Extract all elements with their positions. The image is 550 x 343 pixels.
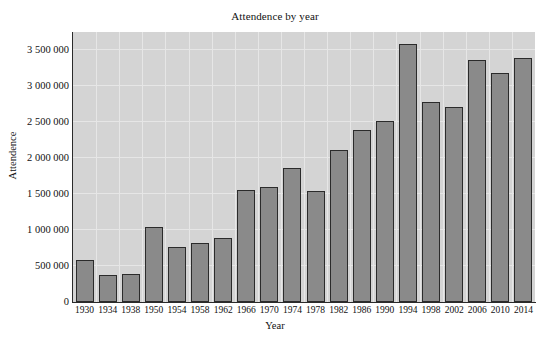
y-axis-line bbox=[72, 32, 73, 303]
chart-title: Attendence by year bbox=[0, 10, 550, 22]
y-axis-tick-label: 500 000 bbox=[3, 261, 69, 271]
bar-series bbox=[73, 32, 535, 302]
bar bbox=[468, 60, 486, 302]
x-axis-tick-label: 1986 bbox=[350, 304, 373, 316]
x-axis-tick-label: 1994 bbox=[396, 304, 419, 316]
x-axis-title: Year bbox=[0, 320, 550, 331]
bar bbox=[422, 102, 440, 302]
x-axis-tick-label: 1990 bbox=[373, 304, 396, 316]
x-axis-tick-label: 1978 bbox=[304, 304, 327, 316]
bar bbox=[168, 247, 186, 302]
bar bbox=[76, 260, 94, 302]
x-axis-tick-label: 1962 bbox=[212, 304, 235, 316]
y-axis-tick-label: 3 000 000 bbox=[3, 81, 69, 91]
bar bbox=[99, 275, 117, 302]
x-axis-tick-label: 1958 bbox=[189, 304, 212, 316]
x-axis-tick-label: 1998 bbox=[420, 304, 443, 316]
bar bbox=[237, 190, 255, 302]
plot-area bbox=[73, 32, 535, 302]
x-axis-tick-label: 1966 bbox=[235, 304, 258, 316]
bar bbox=[514, 58, 532, 302]
bar bbox=[330, 150, 348, 302]
y-axis-tick-label: 0 bbox=[3, 297, 69, 307]
x-axis-tick-label: 1974 bbox=[281, 304, 304, 316]
x-axis-tick-label: 1934 bbox=[96, 304, 119, 316]
bar bbox=[260, 187, 278, 302]
x-axis-tick-label: 1950 bbox=[142, 304, 165, 316]
bar bbox=[376, 121, 394, 302]
x-axis-tick-label: 1938 bbox=[119, 304, 142, 316]
bar bbox=[145, 227, 163, 302]
x-axis-tick-label: 2006 bbox=[466, 304, 489, 316]
bar bbox=[399, 44, 417, 302]
x-axis-tick-label: 2014 bbox=[512, 304, 535, 316]
bar bbox=[214, 238, 232, 302]
x-axis-tick-labels: 1930193419381950195419581962196619701974… bbox=[73, 304, 535, 320]
y-axis-title: Attendence bbox=[7, 101, 18, 211]
bar bbox=[191, 243, 209, 302]
bar bbox=[353, 130, 371, 302]
y-axis-tick-label: 3 500 000 bbox=[3, 45, 69, 55]
x-axis-tick-label: 1970 bbox=[258, 304, 281, 316]
bar bbox=[122, 274, 140, 302]
x-axis-tick-label: 1982 bbox=[327, 304, 350, 316]
bar bbox=[307, 191, 325, 302]
y-axis-tick-label: 1 000 000 bbox=[3, 225, 69, 235]
x-axis-tick-label: 1954 bbox=[165, 304, 188, 316]
x-axis-tick-label: 1930 bbox=[73, 304, 96, 316]
bar bbox=[491, 73, 509, 302]
bar bbox=[283, 168, 301, 302]
x-axis-line bbox=[72, 302, 536, 303]
x-axis-tick-label: 2002 bbox=[443, 304, 466, 316]
bar bbox=[445, 107, 463, 302]
x-axis-tick-label: 2010 bbox=[489, 304, 512, 316]
bar-chart-figure: Attendence by year 0500 0001 000 0001 50… bbox=[0, 0, 550, 343]
